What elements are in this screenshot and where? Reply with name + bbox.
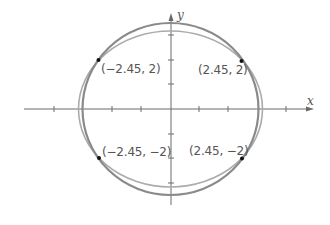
- y-axis-label: y: [177, 9, 184, 21]
- intersection-point: [97, 156, 101, 160]
- intersection-point: [97, 58, 101, 62]
- point-label: (−2.45, −2): [102, 146, 171, 158]
- plot-area: [0, 0, 330, 225]
- point-label: (2.45, −2): [189, 145, 248, 157]
- x-axis-label: x: [307, 95, 314, 107]
- point-label: (−2.45, 2): [101, 63, 160, 75]
- point-label: (2.45, 2): [198, 64, 248, 76]
- y-axis-arrow-icon: [169, 13, 174, 21]
